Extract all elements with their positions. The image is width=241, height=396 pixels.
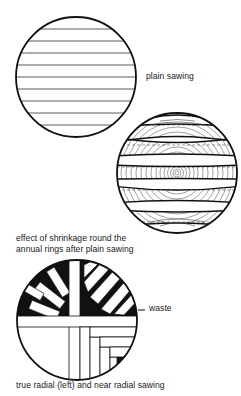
radial-sawing-log bbox=[15, 258, 145, 387]
shrinkage-caption: effect of shrinkage round the annual rin… bbox=[16, 233, 134, 254]
shrinkage-caption-line2: annual rings after plain sawing bbox=[16, 244, 134, 255]
shrinkage-log bbox=[112, 113, 241, 240]
plain-sawing-log bbox=[10, 17, 140, 137]
plain-sawing-caption: plain sawing bbox=[146, 71, 194, 82]
shrinkage-caption-line1: effect of shrinkage round the bbox=[16, 233, 134, 244]
sawing-diagram bbox=[0, 0, 241, 396]
radial-sawing-caption: true radial (left) and near radial sawin… bbox=[16, 380, 165, 391]
waste-callout-label: waste bbox=[149, 303, 172, 314]
